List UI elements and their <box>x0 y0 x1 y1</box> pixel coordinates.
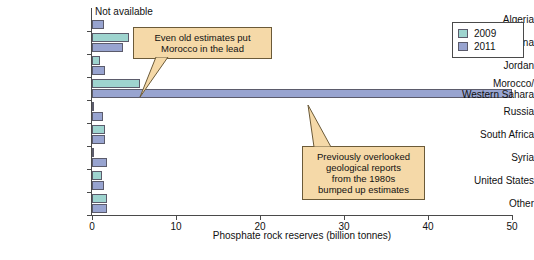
x-tick <box>344 215 345 220</box>
bar-syria-2011 <box>92 158 107 167</box>
y-tick <box>87 31 92 32</box>
bar-syria-2009 <box>92 148 94 157</box>
x-axis-line <box>91 215 512 216</box>
bar-jordan-2009 <box>92 56 100 65</box>
y-tick <box>87 192 92 193</box>
y-tick <box>87 77 92 78</box>
bar-other-2009 <box>92 194 107 203</box>
y-tick <box>87 100 92 101</box>
x-tick <box>260 215 261 220</box>
legend: 2009 2011 <box>452 22 524 58</box>
bar-united-states-2011 <box>92 181 104 190</box>
annotation-callout-2-tail-icon <box>300 103 350 151</box>
bar-jordan-2011 <box>92 66 105 75</box>
category-label: Russia <box>448 106 534 117</box>
category-label: United States <box>448 175 534 186</box>
legend-label-2009: 2009 <box>474 28 496 39</box>
bar-china-2011 <box>92 43 123 52</box>
x-tick <box>92 215 93 220</box>
not-available-note: Not available <box>95 6 153 17</box>
legend-item-2011[interactable]: 2011 <box>458 41 518 52</box>
bar-russia-2011 <box>92 112 103 121</box>
x-tick <box>428 215 429 220</box>
bar-other-2011 <box>92 204 107 213</box>
bar-united-states-2009 <box>92 171 102 180</box>
annotation-callout-geological-reports: Previously overlooked geological reports… <box>302 146 425 200</box>
legend-item-2009[interactable]: 2009 <box>458 28 518 39</box>
category-label: Morocco/ Western Sahara <box>448 78 534 100</box>
bar-south-africa-2009 <box>92 125 105 134</box>
legend-label-2011: 2011 <box>474 41 496 52</box>
category-label: Other <box>448 198 534 209</box>
y-tick <box>87 123 92 124</box>
legend-swatch-2009-icon <box>458 29 468 38</box>
x-tick <box>176 215 177 220</box>
y-tick <box>87 215 92 216</box>
y-tick <box>87 169 92 170</box>
x-axis-title: Phosphate rock reserves (billion tonnes) <box>92 230 512 241</box>
bar-algeria-2011 <box>92 20 104 29</box>
category-label: Jordan <box>448 60 534 71</box>
legend-swatch-2011-icon <box>458 42 468 51</box>
category-label: Syria <box>448 152 534 163</box>
category-label: South Africa <box>448 129 534 140</box>
y-tick <box>87 54 92 55</box>
annotation-callout-1-tail-icon <box>126 55 186 100</box>
y-tick <box>87 146 92 147</box>
phosphate-reserves-bar-chart: 01020304050 AlgeriaChinaJordanMorocco/ W… <box>0 0 534 260</box>
x-tick <box>512 215 513 220</box>
bar-russia-2009 <box>92 102 94 111</box>
bar-china-2009 <box>92 33 129 42</box>
bar-south-africa-2011 <box>92 135 105 144</box>
